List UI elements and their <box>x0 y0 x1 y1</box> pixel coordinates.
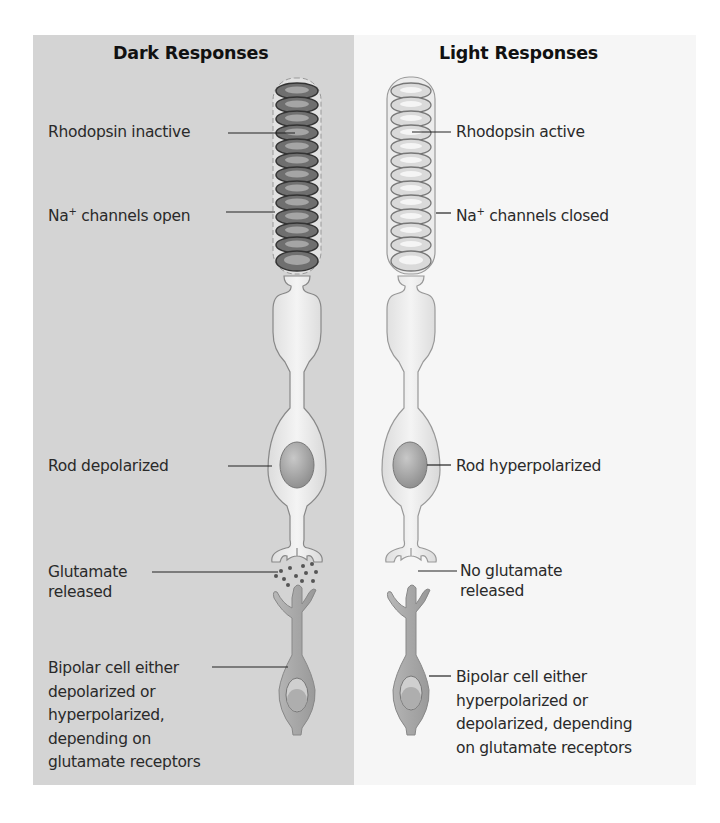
na-channels-closed-label: Na+ channels closed <box>456 202 609 226</box>
rod-hyperpolarized-label: Rod hyperpolarized <box>456 456 601 476</box>
glutamate-released-label: Glutamate released <box>48 562 127 602</box>
glutamate-dots <box>274 562 318 587</box>
rod-depolarized-label: Rod depolarized <box>48 456 169 476</box>
rhodopsin-inactive-label: Rhodopsin inactive <box>48 122 190 142</box>
rhodopsin-active-label: Rhodopsin active <box>456 122 585 142</box>
dark-bipolar-label: Bipolar cell either depolarized or hyper… <box>48 657 200 775</box>
no-glutamate-label: No glutamate released <box>460 561 562 601</box>
dark-rod-cell <box>268 78 326 735</box>
na-channels-open-label: Na+ channels open <box>48 202 190 226</box>
light-responses-title: Light Responses <box>439 43 598 63</box>
light-rod-cell <box>382 77 440 735</box>
light-bipolar-label: Bipolar cell either hyperpolarized or de… <box>456 666 632 760</box>
dark-responses-title: Dark Responses <box>113 43 268 63</box>
